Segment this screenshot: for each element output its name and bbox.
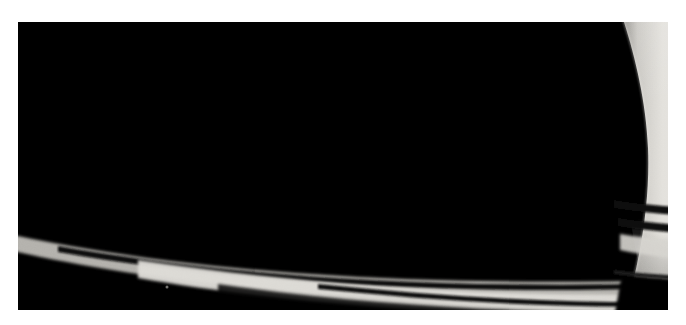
saturn-rings-illustration [18,22,668,310]
saturn-rings-photograph [18,22,668,310]
screenshot-canvas [0,0,686,325]
film-grain-overlay [18,22,668,310]
